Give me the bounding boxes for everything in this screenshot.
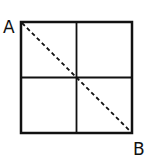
label-a: A — [3, 17, 15, 37]
grid-diagram: A B — [0, 0, 148, 162]
label-b: B — [133, 139, 145, 159]
